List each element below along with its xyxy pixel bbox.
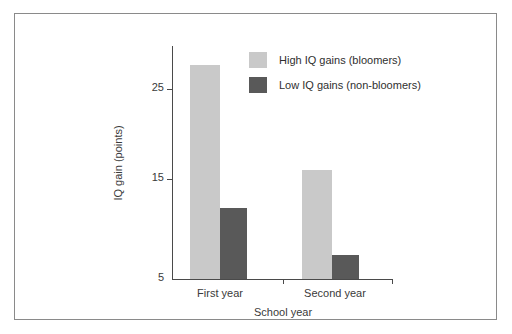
x-axis-title: School year	[254, 306, 312, 318]
x-tick-end	[392, 279, 393, 284]
legend-label-bloomers: High IQ gains (bloomers)	[279, 54, 401, 66]
bar-second-year-non-bloomers[interactable]	[332, 255, 359, 279]
bar-first-year-bloomers[interactable]	[190, 65, 220, 279]
legend-label-non-bloomers: Low IQ gains (non-bloomers)	[279, 79, 421, 91]
y-axis-line	[172, 46, 173, 279]
figure-frame: IQ gain (points) School year 25 15 5	[14, 13, 497, 320]
x-tick-middle	[283, 279, 284, 284]
y-axis-title: IQ gain (points)	[112, 125, 124, 200]
y-tick-mark	[167, 179, 172, 180]
y-tick-label: 25	[152, 81, 164, 93]
legend: High IQ gains (bloomers) Low IQ gains (n…	[249, 52, 421, 102]
figure-canvas: IQ gain (points) School year 25 15 5	[0, 0, 512, 334]
x-category-label-first-year: First year	[197, 287, 243, 299]
y-tick-mark	[167, 89, 172, 90]
legend-entry-non-bloomers[interactable]: Low IQ gains (non-bloomers)	[249, 77, 421, 93]
y-tick-label: 5	[158, 271, 164, 283]
legend-swatch-dark-gray-icon	[249, 77, 267, 93]
x-category-label-second-year: Second year	[304, 287, 366, 299]
legend-swatch-light-gray-icon	[249, 52, 267, 68]
bar-first-year-non-bloomers[interactable]	[220, 208, 247, 279]
legend-entry-bloomers[interactable]: High IQ gains (bloomers)	[249, 52, 421, 68]
y-tick-label: 15	[152, 171, 164, 183]
bar-second-year-bloomers[interactable]	[302, 170, 332, 279]
